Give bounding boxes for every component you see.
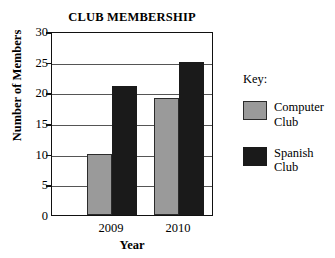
y-axis-tick-label: 25	[8, 57, 48, 70]
chart-title: CLUB MEMBERSHIP	[51, 10, 213, 25]
x-axis-tick-label: 2010	[143, 221, 213, 236]
legend-entry: SpanishClub	[243, 146, 335, 176]
plot-area	[51, 32, 213, 216]
legend-title: Key:	[243, 72, 335, 87]
y-axis-tick-label: 20	[8, 87, 48, 100]
legend-label: SpanishClub	[274, 146, 314, 176]
x-axis-tick-label: 2009	[76, 221, 146, 236]
legend-swatch	[243, 101, 267, 120]
club-membership-bar-chart: CLUB MEMBERSHIP Number of Members 051015…	[0, 0, 335, 258]
y-axis-tick-label: 0	[8, 210, 48, 223]
bar-2010-spanish-club	[179, 62, 204, 215]
x-axis-title: Year	[51, 238, 213, 253]
bar-2009-computer-club	[87, 154, 112, 215]
legend-swatch	[243, 147, 267, 166]
bar-2010-computer-club	[154, 98, 179, 215]
y-axis-tick-label: 15	[8, 118, 48, 131]
y-axis-tick-label: 10	[8, 149, 48, 162]
legend-entry: ComputerClub	[243, 100, 335, 130]
y-axis-tick-label: 30	[8, 26, 48, 39]
bar-2009-spanish-club	[112, 86, 137, 215]
legend-label: ComputerClub	[274, 100, 324, 130]
legend-key: Key: ComputerClubSpanishClub	[243, 72, 335, 191]
legend-entries: ComputerClubSpanishClub	[243, 100, 335, 175]
y-axis-tick-label: 5	[8, 179, 48, 192]
